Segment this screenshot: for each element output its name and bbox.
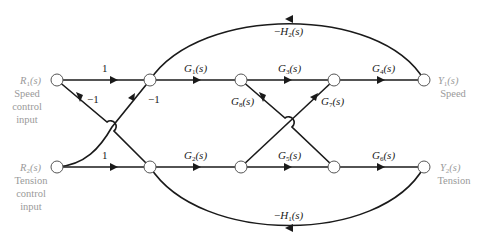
arrow-g2 <box>193 163 201 171</box>
node-n3 <box>328 74 340 86</box>
gain-label-g5: G5(s) <box>278 149 301 163</box>
input-symbol-r2: R2(s) <box>19 162 42 175</box>
arrow-g3 <box>284 76 292 84</box>
output-label-y2: Tension <box>437 175 471 186</box>
signal-flow-graph: 1 −1 −1 1 G1(s) G3(s) G4(s) G2(s) G5(s) … <box>0 0 481 238</box>
arrow-g1 <box>193 76 201 84</box>
arrow-g5 <box>284 163 292 171</box>
gain-label-r2-n4: 1 <box>102 149 108 161</box>
arrow-r2-n1 <box>128 93 135 101</box>
node-n4 <box>144 161 156 173</box>
node-n6 <box>328 161 340 173</box>
input-label-r2-line2: control <box>16 188 46 199</box>
input-label-r1-line1: Speed <box>14 88 40 99</box>
gain-label-r1-n4: −1 <box>87 93 99 105</box>
gain-label-g1: G1(s) <box>184 62 207 76</box>
output-symbol-y1: Y1(s) <box>438 75 459 88</box>
input-symbol-r1: R1(s) <box>19 75 42 88</box>
output-label-y1: Speed <box>440 88 466 99</box>
node-n5 <box>235 161 247 173</box>
node-r2 <box>51 161 63 173</box>
arrow-r2-n4 <box>110 163 118 171</box>
gain-label-g3: G3(s) <box>278 62 301 76</box>
gain-label-h2: −H2(s) <box>274 25 304 39</box>
arrow-r1-n1 <box>110 76 118 84</box>
node-y1 <box>418 74 430 86</box>
input-label-r2-line1: Tension <box>14 175 48 186</box>
gain-label-g6: G6(s) <box>372 149 395 163</box>
gain-label-g2: G2(s) <box>184 149 207 163</box>
arrow-g4 <box>377 76 385 84</box>
gain-label-g8: G8(s) <box>231 95 254 109</box>
output-symbol-y2: Y2(s) <box>440 162 461 175</box>
input-label-r1-line2: control <box>12 101 42 112</box>
node-n2 <box>235 74 247 86</box>
arrow-h2 <box>285 15 293 23</box>
arrow-g6 <box>377 163 385 171</box>
node-y2 <box>418 161 430 173</box>
node-n1 <box>144 74 156 86</box>
input-label-r2-line3: input <box>20 201 42 212</box>
gain-label-r2-n1: −1 <box>148 93 160 105</box>
gain-label-h1: −H1(s) <box>274 209 304 223</box>
node-r1 <box>51 74 63 86</box>
gain-label-g4: G4(s) <box>372 62 395 76</box>
input-label-r1-line3: input <box>16 114 38 125</box>
gain-label-g7: G7(s) <box>321 95 344 109</box>
gain-label-r1-n1: 1 <box>102 62 108 74</box>
